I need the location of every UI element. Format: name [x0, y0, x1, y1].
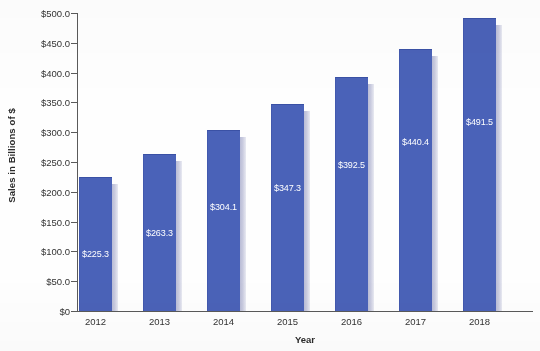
bar-value-label: $491.5	[463, 117, 496, 127]
x-axis-line	[77, 311, 533, 312]
y-axis-tick-labels: $0$50.0$100.0$150.0$200.0$250.0$300.0$35…	[18, 0, 70, 351]
y-axis-tick-label: $200.0	[41, 186, 70, 197]
y-axis-tick-label: $500.0	[41, 8, 70, 19]
bar[interactable]	[399, 49, 432, 311]
bar[interactable]	[79, 177, 112, 311]
bar-value-label: $347.3	[271, 183, 304, 193]
bar-shadow	[240, 137, 246, 311]
y-axis-tick-label: $300.0	[41, 127, 70, 138]
bar-chart: Sales in Billions of $ $0$50.0$100.0$150…	[0, 0, 540, 351]
bar[interactable]	[207, 130, 240, 311]
x-axis-tick-label: 2016	[325, 316, 379, 327]
bar-value-label: $225.3	[79, 249, 112, 259]
y-axis-title-text: Sales in Billions of $	[6, 108, 17, 203]
bar-value-label: $263.3	[143, 228, 176, 238]
y-axis-tick-label: $0	[59, 306, 70, 317]
y-axis-tick-label: $400.0	[41, 67, 70, 78]
x-axis-title: Year	[77, 334, 533, 345]
y-axis-tick-mark	[71, 222, 77, 223]
bar-shadow	[432, 56, 438, 311]
bar-shadow	[496, 25, 502, 311]
x-axis-tick-label: 2018	[453, 316, 507, 327]
bar-value-label: $392.5	[335, 160, 368, 170]
x-axis-tick-label: 2015	[261, 316, 315, 327]
bar[interactable]	[463, 18, 496, 311]
x-axis-tick-label: 2012	[69, 316, 123, 327]
y-axis-tick-mark	[71, 192, 77, 193]
y-axis-tick-mark	[71, 102, 77, 103]
y-axis-tick-mark	[71, 13, 77, 14]
bar-shadow	[304, 111, 310, 311]
y-axis-tick-label: $250.0	[41, 157, 70, 168]
x-axis-tick-label: 2017	[389, 316, 443, 327]
y-axis-tick-mark	[71, 73, 77, 74]
y-axis-tick-mark	[71, 162, 77, 163]
bar[interactable]	[271, 104, 304, 311]
y-axis-tick-mark	[71, 311, 77, 312]
bar[interactable]	[335, 77, 368, 311]
y-axis-tick-label: $350.0	[41, 97, 70, 108]
y-axis-tick-mark	[71, 251, 77, 252]
bar-value-label: $304.1	[207, 202, 240, 212]
y-axis-tick-label: $150.0	[41, 216, 70, 227]
plot-area: $225.3$263.3$304.1$347.3$392.5$440.4$491…	[78, 13, 533, 311]
y-axis-tick-label: $100.0	[41, 246, 70, 257]
bar-value-label: $440.4	[399, 137, 432, 147]
y-axis-tick-mark	[71, 281, 77, 282]
x-axis-tick-label: 2014	[197, 316, 251, 327]
bar-shadow	[176, 161, 182, 311]
y-axis-tick-label: $450.0	[41, 37, 70, 48]
bar-shadow	[112, 184, 118, 311]
bar-shadow	[368, 84, 374, 311]
y-axis-tick-mark	[71, 43, 77, 44]
y-axis-tick-label: $50.0	[46, 276, 70, 287]
y-axis-tick-mark	[71, 132, 77, 133]
x-axis-tick-label: 2013	[133, 316, 187, 327]
